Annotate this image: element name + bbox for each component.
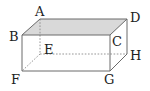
- rectangular-prism-diagram: A B C D E F G H: [0, 0, 150, 91]
- vertex-label-f: F: [11, 72, 20, 87]
- vertex-label-h: H: [130, 48, 141, 63]
- vertex-label-a: A: [34, 4, 45, 19]
- vertex-label-c: C: [112, 34, 122, 49]
- edge-gh: [110, 54, 127, 71]
- vertex-label-g: G: [104, 72, 114, 87]
- vertex-label-d: D: [130, 10, 140, 25]
- edge-ef-hidden: [22, 54, 40, 71]
- vertex-label-b: B: [9, 29, 19, 44]
- vertex-label-e: E: [44, 42, 54, 57]
